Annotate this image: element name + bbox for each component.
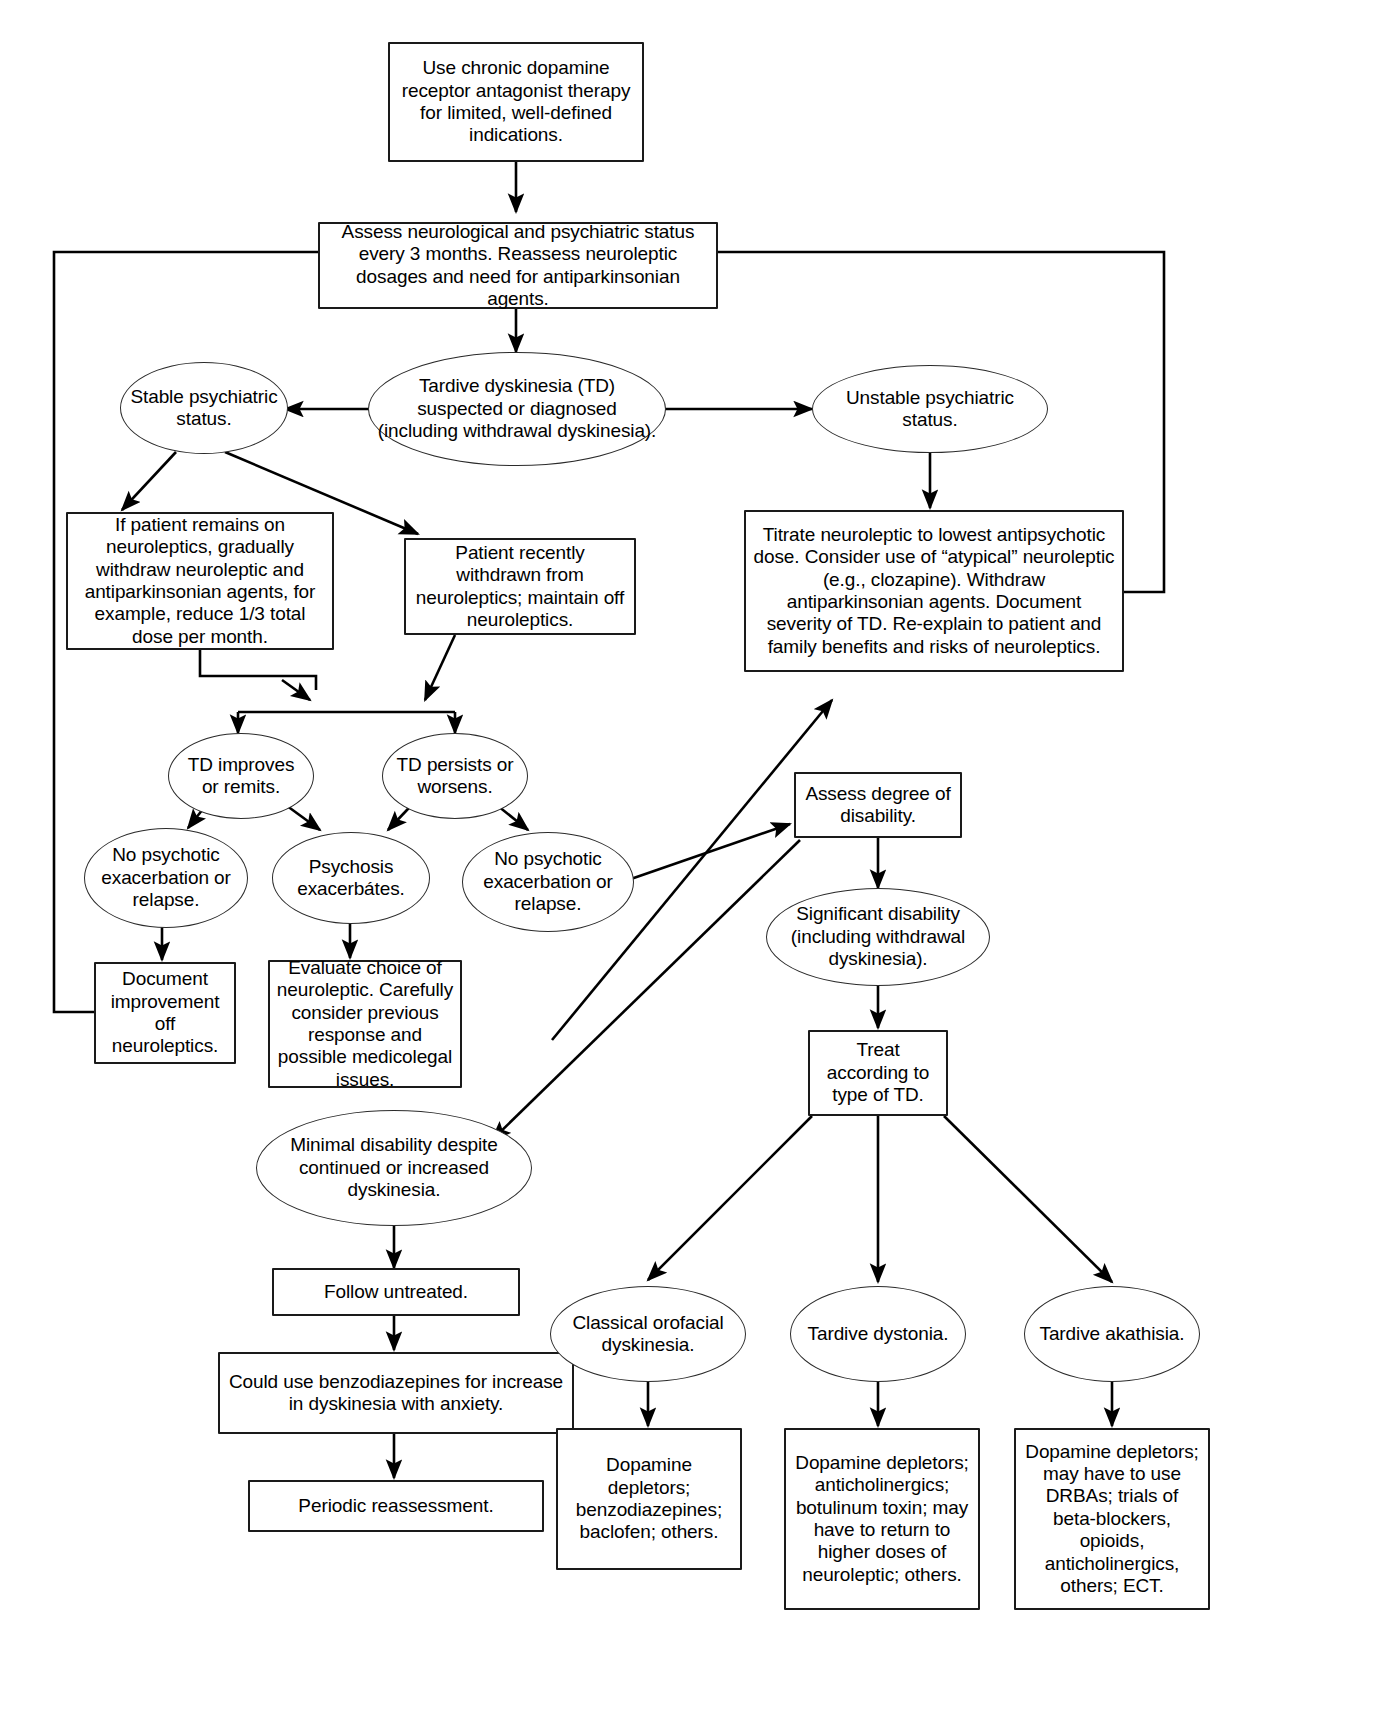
- node-td-suspected[interactable]: Tardive dyskinesia (TD) suspected or dia…: [368, 352, 666, 466]
- node-assess-status[interactable]: Assess neurological and psychiatric stat…: [318, 222, 718, 309]
- node-recently-withdrawn[interactable]: Patient recently withdrawn from neurolep…: [404, 538, 636, 635]
- node-document-improvement[interactable]: Document improvement off neuroleptics.: [94, 962, 236, 1064]
- node-evaluate-choice[interactable]: Evaluate choice of neuroleptic. Carefull…: [268, 960, 462, 1088]
- node-treat-according-label: Treat according to type of TD.: [816, 1039, 940, 1106]
- node-tx-akathisia-label: Dopamine depletors; may have to use DRBA…: [1022, 1441, 1202, 1598]
- node-td-persists-label: TD persists or worsens.: [391, 754, 519, 799]
- node-follow-untreated[interactable]: Follow untreated.: [272, 1268, 520, 1316]
- node-classical-orofacial[interactable]: Classical orofacial dyskinesia.: [550, 1286, 746, 1382]
- node-no-psychotic-right[interactable]: No psychotic exacerbation or relapse.: [462, 832, 634, 932]
- node-evaluate-choice-label: Evaluate choice of neuroleptic. Carefull…: [276, 957, 454, 1091]
- node-tardive-dystonia[interactable]: Tardive dystonia.: [790, 1286, 966, 1382]
- node-minimal-disability-label: Minimal disability despite continued or …: [265, 1134, 523, 1201]
- node-td-improves[interactable]: TD improves or remits.: [168, 733, 314, 819]
- node-stable-status[interactable]: Stable psychiatric status.: [120, 362, 288, 454]
- node-titrate-neuroleptic[interactable]: Titrate neuroleptic to lowest antipsycho…: [744, 510, 1124, 672]
- node-periodic-reassessment-label: Periodic reassessment.: [256, 1495, 536, 1517]
- node-unstable-status[interactable]: Unstable psychiatric status.: [812, 365, 1048, 453]
- node-if-patient-remains[interactable]: If patient remains on neuroleptics, grad…: [66, 512, 334, 650]
- node-follow-untreated-label: Follow untreated.: [280, 1281, 512, 1303]
- node-start-therapy-label: Use chronic dopamine receptor antagonist…: [396, 57, 636, 147]
- node-assess-disability[interactable]: Assess degree of disability.: [794, 772, 962, 838]
- node-tardive-dystonia-label: Tardive dystonia.: [799, 1323, 957, 1345]
- node-td-improves-label: TD improves or remits.: [177, 754, 305, 799]
- node-tx-orofacial-label: Dopamine depletors; benzodiazepines; bac…: [564, 1454, 734, 1544]
- node-stable-status-label: Stable psychiatric status.: [129, 386, 279, 431]
- node-no-psychotic-right-label: No psychotic exacerbation or relapse.: [471, 848, 625, 915]
- node-periodic-reassessment[interactable]: Periodic reassessment.: [248, 1480, 544, 1532]
- node-if-patient-remains-label: If patient remains on neuroleptics, grad…: [74, 514, 326, 648]
- node-td-persists[interactable]: TD persists or worsens.: [382, 733, 528, 819]
- node-psychosis-exacerbates[interactable]: Psychosis exacerbátes.: [272, 832, 430, 924]
- node-no-psychotic-left-label: No psychotic exacerbation or relapse.: [93, 844, 239, 911]
- node-could-use-benzos[interactable]: Could use benzodiazepines for increase i…: [218, 1352, 574, 1434]
- node-titrate-neuroleptic-label: Titrate neuroleptic to lowest antipsycho…: [752, 524, 1116, 658]
- node-assess-disability-label: Assess degree of disability.: [802, 783, 954, 828]
- node-recently-withdrawn-label: Patient recently withdrawn from neurolep…: [412, 542, 628, 632]
- node-tx-dystonia-label: Dopamine depletors; anticholinergics; bo…: [792, 1452, 972, 1586]
- node-tardive-akathisia[interactable]: Tardive akathisia.: [1024, 1286, 1200, 1382]
- node-assess-status-label: Assess neurological and psychiatric stat…: [326, 221, 710, 311]
- node-psychosis-exacerbates-label: Psychosis exacerbátes.: [281, 856, 421, 901]
- node-tx-akathisia[interactable]: Dopamine depletors; may have to use DRBA…: [1014, 1428, 1210, 1610]
- node-classical-orofacial-label: Classical orofacial dyskinesia.: [559, 1312, 737, 1357]
- node-treat-according[interactable]: Treat according to type of TD.: [808, 1030, 948, 1116]
- node-tardive-akathisia-label: Tardive akathisia.: [1033, 1323, 1191, 1345]
- node-unstable-status-label: Unstable psychiatric status.: [821, 387, 1039, 432]
- node-td-suspected-label: Tardive dyskinesia (TD) suspected or dia…: [377, 375, 657, 442]
- node-could-use-benzos-label: Could use benzodiazepines for increase i…: [226, 1371, 566, 1416]
- node-tx-orofacial[interactable]: Dopamine depletors; benzodiazepines; bac…: [556, 1428, 742, 1570]
- node-start-therapy[interactable]: Use chronic dopamine receptor antagonist…: [388, 42, 644, 162]
- node-tx-dystonia[interactable]: Dopamine depletors; anticholinergics; bo…: [784, 1428, 980, 1610]
- node-significant-disability[interactable]: Significant disability (including withdr…: [766, 888, 990, 986]
- flowchart-canvas: Use chronic dopamine receptor antagonist…: [0, 0, 1376, 1714]
- node-no-psychotic-left[interactable]: No psychotic exacerbation or relapse.: [84, 828, 248, 928]
- node-significant-disability-label: Significant disability (including withdr…: [775, 903, 981, 970]
- node-document-improvement-label: Document improvement off neuroleptics.: [102, 968, 228, 1058]
- node-minimal-disability[interactable]: Minimal disability despite continued or …: [256, 1110, 532, 1226]
